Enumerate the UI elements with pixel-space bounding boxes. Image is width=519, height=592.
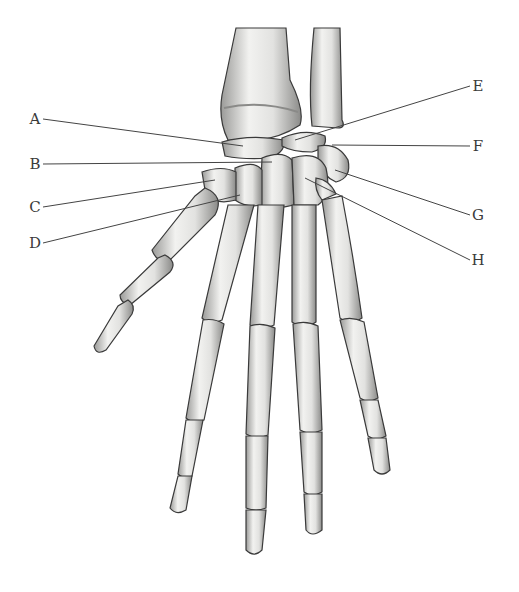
- index-distal-phalanx: [170, 476, 192, 513]
- middle-proximal-phalanx: [246, 324, 275, 437]
- leader-line-b: [43, 162, 272, 164]
- ulna-bone: [310, 28, 343, 128]
- thumb-metacarpal: [152, 188, 218, 262]
- middle-middle-phalanx: [246, 436, 268, 510]
- bones: [94, 28, 390, 554]
- little-distal-phalanx: [368, 438, 390, 474]
- index-middle-phalanx: [178, 420, 203, 478]
- carpal-trapezoid: [235, 164, 262, 205]
- index-proximal-phalanx: [186, 320, 224, 422]
- label-a: A: [30, 112, 41, 127]
- thumb-proximal-phalanx: [120, 255, 173, 305]
- leader-line-f: [332, 145, 470, 146]
- label-h: H: [471, 253, 484, 268]
- label-g: G: [472, 208, 484, 223]
- middle-distal-phalanx: [246, 510, 266, 554]
- index-metacarpal: [202, 205, 254, 323]
- ring-proximal-phalanx: [293, 322, 322, 433]
- label-f: F: [473, 139, 483, 154]
- ring-metacarpal: [292, 205, 316, 326]
- thumb-distal-phalanx: [94, 300, 133, 352]
- label-b: B: [29, 157, 40, 172]
- hand-skeleton-diagram: A B C D E F G H: [0, 0, 519, 592]
- little-middle-phalanx: [360, 400, 386, 439]
- radius-bone: [221, 28, 301, 141]
- label-c: C: [29, 200, 40, 215]
- label-d: D: [29, 236, 41, 251]
- label-e: E: [473, 79, 484, 94]
- leader-line-g: [335, 170, 470, 215]
- ring-middle-phalanx: [300, 432, 322, 495]
- ring-distal-phalanx: [304, 494, 322, 534]
- little-proximal-phalanx: [340, 318, 378, 401]
- leader-line-a: [43, 119, 243, 146]
- little-metacarpal: [322, 196, 362, 322]
- middle-metacarpal: [250, 205, 284, 329]
- hand-skeleton-illustration: [0, 0, 519, 592]
